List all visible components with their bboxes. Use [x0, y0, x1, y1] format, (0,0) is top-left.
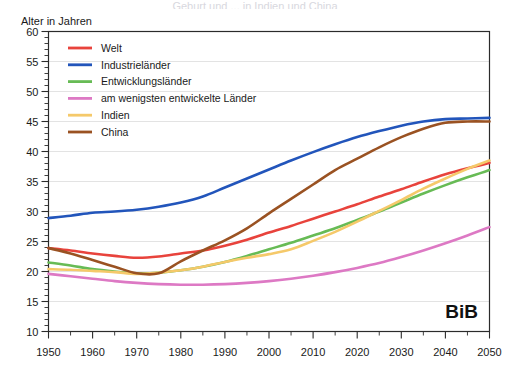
- x-tick-label: 2050: [477, 346, 501, 358]
- y-tick-label: 40: [26, 146, 38, 158]
- legend-label: Entwicklungsländer: [101, 75, 192, 87]
- x-tick-label: 2030: [389, 346, 413, 358]
- chart-legend: WeltIndustrieländerEntwicklungsländeram …: [68, 42, 257, 138]
- y-tick-label: 50: [26, 86, 38, 98]
- x-tick-label: 1960: [80, 346, 104, 358]
- legend-label: Welt: [101, 42, 122, 54]
- line-chart-svg: 1015202530354045505560 19501960197019801…: [0, 0, 510, 381]
- series-line: [49, 170, 490, 273]
- x-tick-label: 1970: [124, 346, 148, 358]
- y-tick-label: 30: [26, 206, 38, 218]
- x-tick-label: 2020: [345, 346, 369, 358]
- x-tick-label: 2000: [257, 346, 281, 358]
- x-tick-label: 1980: [169, 346, 193, 358]
- y-tick-label: 20: [26, 266, 38, 278]
- y-tick-label: 35: [26, 176, 38, 188]
- x-axis-ticks: 1950196019701980199020002010202020302040…: [36, 332, 501, 358]
- x-tick-label: 1950: [36, 346, 60, 358]
- chart-container: Geburt und ... in Indien und China Alter…: [0, 0, 510, 381]
- legend-label: China: [101, 126, 129, 138]
- y-tick-label: 15: [26, 296, 38, 308]
- legend-label: am wenigsten entwickelte Länder: [101, 92, 257, 104]
- y-tick-label: 45: [26, 116, 38, 128]
- y-tick-label: 10: [26, 326, 38, 338]
- x-tick-label: 2040: [433, 346, 457, 358]
- bib-watermark: BiB: [445, 301, 478, 322]
- y-tick-label: 60: [26, 26, 38, 38]
- y-axis-ticks: 1015202530354045505560: [26, 26, 48, 338]
- series-lines: [49, 118, 490, 285]
- x-tick-label: 1990: [213, 346, 237, 358]
- legend-label: Industrieländer: [101, 59, 171, 71]
- y-tick-label: 55: [26, 56, 38, 68]
- x-tick-label: 2010: [301, 346, 325, 358]
- y-tick-label: 25: [26, 236, 38, 248]
- legend-label: Indien: [101, 109, 130, 121]
